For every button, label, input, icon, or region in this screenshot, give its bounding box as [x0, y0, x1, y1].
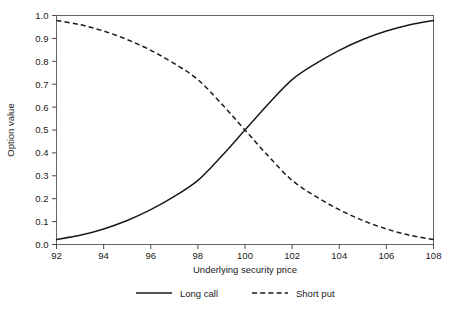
data-series-group	[57, 21, 434, 240]
y-axis-ticks	[52, 16, 57, 245]
chart-figure: 0.00.10.20.30.40.50.60.70.80.91.0 929496…	[0, 0, 459, 310]
y-tick-label-0.3: 0.3	[35, 170, 48, 181]
x-tick-label-92: 92	[51, 250, 62, 261]
y-tick-label-0.6: 0.6	[35, 102, 48, 113]
y-tick-label-0.1: 0.1	[35, 216, 48, 227]
x-axis-ticks	[57, 245, 434, 250]
y-tick-label-0.9: 0.9	[35, 33, 48, 44]
legend-label-short-put: Short put	[296, 288, 335, 299]
y-axis-title: Option value	[5, 103, 16, 156]
y-axis-tick-labels: 0.00.10.20.30.40.50.60.70.80.91.0	[35, 10, 48, 250]
x-tick-label-104: 104	[331, 250, 347, 261]
x-axis-title: Underlying security price	[193, 264, 297, 275]
x-tick-label-108: 108	[426, 250, 442, 261]
legend-label-long-call: Long call	[180, 288, 218, 299]
option-value-line-chart: 0.00.10.20.30.40.50.60.70.80.91.0 929496…	[0, 0, 459, 310]
y-tick-label-0.0: 0.0	[35, 239, 48, 250]
x-tick-label-98: 98	[193, 250, 204, 261]
chart-legend: Long call Short put	[136, 288, 335, 299]
x-tick-label-96: 96	[145, 250, 156, 261]
y-tick-label-1.0: 1.0	[35, 10, 48, 21]
y-tick-label-0.4: 0.4	[35, 147, 48, 158]
x-tick-label-100: 100	[237, 250, 253, 261]
series-line-short-put	[57, 21, 434, 240]
x-axis-tick-labels: 92949698100102104106108	[51, 250, 441, 261]
x-tick-label-106: 106	[378, 250, 394, 261]
x-tick-label-94: 94	[98, 250, 109, 261]
y-tick-label-0.7: 0.7	[35, 79, 48, 90]
y-tick-label-0.2: 0.2	[35, 193, 48, 204]
x-tick-label-102: 102	[284, 250, 300, 261]
y-tick-label-0.8: 0.8	[35, 56, 48, 67]
y-tick-label-0.5: 0.5	[35, 124, 48, 135]
